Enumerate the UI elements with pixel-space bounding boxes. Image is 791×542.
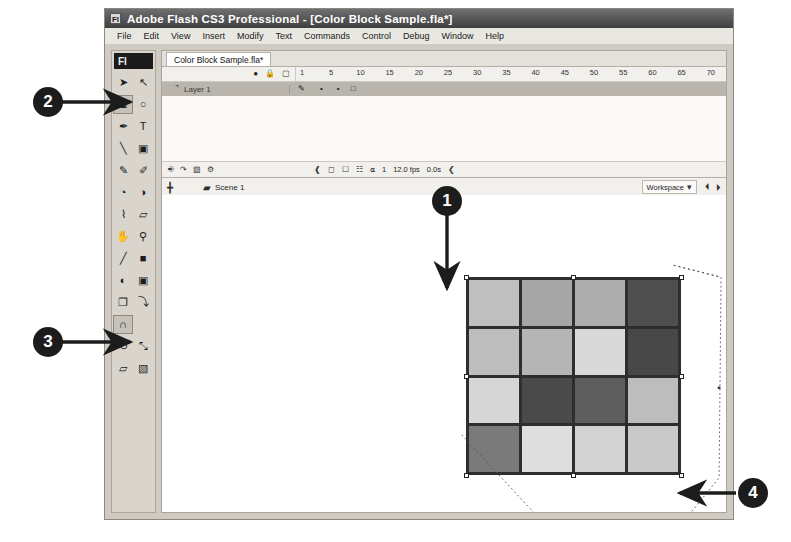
timeline-playback-info: ❰ ◻ ☐ ☷ ⍺ 1 12.0 fps 0.0s ❮ (290, 165, 726, 174)
color-block-r4-c1[interactable] (469, 426, 519, 472)
layer-name-cell[interactable]: ⌝ Layer 1 (162, 85, 290, 94)
menu-item-modify[interactable]: Modify (231, 31, 270, 41)
pencil-tool[interactable]: ✎ (113, 161, 133, 180)
layer-visibility-dot[interactable]: • (320, 85, 323, 93)
menu-item-commands[interactable]: Commands (298, 31, 356, 41)
free-transform-tool[interactable]: ⧉ (113, 95, 133, 114)
selection-tool[interactable]: ➤ (113, 73, 133, 92)
new-layer-icon[interactable]: ⎆ (168, 166, 174, 174)
ink-bottle-tool[interactable]: ◔ (113, 183, 133, 202)
color-block-r4-c4[interactable] (628, 426, 678, 472)
eyedropper-tool[interactable]: ⌇ (113, 205, 133, 224)
swap-colors-swatch[interactable]: ▣ (133, 271, 153, 290)
zoom-tool[interactable]: ⚲ (133, 227, 153, 246)
color-block-r3-c1[interactable] (469, 378, 519, 424)
center-frame-icon[interactable]: ❰ (314, 166, 321, 174)
color-block-grid[interactable] (466, 277, 681, 475)
scale-option[interactable]: ⤡ (133, 337, 153, 356)
edit-multiple-frames-icon[interactable]: ☷ (356, 166, 363, 174)
add-motion-guide-icon[interactable]: ↷ (180, 166, 187, 174)
subselection-tool[interactable]: ↖ (133, 73, 153, 92)
line-tool[interactable]: ╲ (113, 139, 133, 158)
transform-handle-1[interactable] (464, 275, 469, 280)
menu-item-text[interactable]: Text (269, 31, 298, 41)
hand-tool[interactable]: ✋ (113, 227, 133, 246)
color-block-r2-c4[interactable] (628, 329, 678, 375)
text-tool[interactable]: T (133, 117, 153, 136)
color-block-r2-c1[interactable] (469, 329, 519, 375)
lock-icon[interactable]: 🔒 (265, 70, 275, 78)
layer-icon: ⌝ (175, 85, 179, 93)
scene-icon: ▰ (203, 182, 211, 193)
transform-handle-7[interactable] (571, 473, 576, 478)
stroke-color-swatch[interactable]: ╱ (113, 249, 133, 268)
onion-skin-outline-icon[interactable]: ☐ (342, 166, 349, 174)
eraser-tool[interactable]: ▱ (133, 205, 153, 224)
onion-skin-icon[interactable]: ◻ (328, 166, 335, 174)
edit-scene-icon[interactable]: ╋ (167, 182, 173, 193)
rectangle-tool[interactable]: ▣ (133, 139, 153, 158)
layer-pencil-icon[interactable]: ✎ (298, 85, 305, 93)
eye-icon[interactable]: ● (253, 70, 258, 78)
color-block-r4-c2[interactable] (522, 426, 572, 472)
transform-handle-5[interactable] (679, 374, 684, 379)
menu-item-debug[interactable]: Debug (397, 31, 436, 41)
stage-canvas[interactable] (162, 195, 726, 512)
rotate-option[interactable]: ↻ (113, 337, 133, 356)
color-block-r3-c2[interactable] (522, 378, 572, 424)
color-block-r4-c3[interactable] (575, 426, 625, 472)
color-block-r1-c4[interactable] (628, 280, 678, 326)
menu-item-control[interactable]: Control (356, 31, 397, 41)
color-block-r2-c2[interactable] (522, 329, 572, 375)
menu-item-help[interactable]: Help (480, 31, 511, 41)
new-folder-icon[interactable]: ▧ (193, 166, 201, 174)
menu-item-window[interactable]: Window (436, 31, 480, 41)
envelope-option[interactable]: ▧ (133, 359, 153, 378)
smooth-option[interactable]: ⤵ (133, 293, 153, 312)
timeline-ruler[interactable]: 151015202530354045505560657075 (296, 67, 726, 81)
outline-square-icon[interactable]: ▢ (282, 70, 290, 78)
modify-onion-markers-icon[interactable]: ⍺ (370, 166, 375, 174)
color-block-r1-c3[interactable] (575, 280, 625, 326)
color-block-artwork[interactable] (466, 277, 681, 475)
layer-outline-square[interactable]: □ (351, 85, 356, 93)
pen-tool[interactable]: ✒ (113, 117, 133, 136)
frame-rate-value[interactable]: 12.0 fps (393, 165, 420, 174)
transform-handle-8[interactable] (679, 473, 684, 478)
scroll-left-icon[interactable]: ❮ (448, 166, 455, 174)
fill-color-swatch[interactable]: ■ (133, 249, 153, 268)
black-white-swatch[interactable]: ◐ (113, 271, 133, 290)
callout-1-label: 1 (442, 191, 451, 211)
menu-item-file[interactable]: File (111, 31, 138, 41)
document-tab[interactable]: Color Block Sample.fla* (166, 52, 271, 66)
callout-1: 1 (432, 186, 462, 216)
transform-handle-3[interactable] (679, 275, 684, 280)
color-block-r2-c3[interactable] (575, 329, 625, 375)
transform-handle-2[interactable] (571, 275, 576, 280)
transform-handle-6[interactable] (464, 473, 469, 478)
color-block-r1-c2[interactable] (522, 280, 572, 326)
scene-name-label[interactable]: Scene 1 (215, 183, 244, 192)
brush-tool[interactable]: ✐ (133, 161, 153, 180)
layer-row[interactable]: ⌝ Layer 1 ✎ • • □ (162, 82, 726, 96)
transform-handle-4[interactable] (464, 374, 469, 379)
object-drawing-option[interactable]: ❐ (113, 293, 133, 312)
delete-layer-icon[interactable]: ⚙ (207, 166, 214, 174)
flash-logo: Fl (114, 53, 153, 69)
workspace-selector[interactable]: Workspace ▾ (642, 180, 697, 194)
lasso-tool[interactable]: ○ (133, 95, 153, 114)
menu-item-view[interactable]: View (165, 31, 196, 41)
layer-lock-dot[interactable]: • (337, 85, 340, 93)
paint-bucket-tool[interactable]: ◑ (133, 183, 153, 202)
color-block-r3-c3[interactable] (575, 378, 625, 424)
callout-4: 4 (738, 478, 768, 508)
edit-symbols-button-icon[interactable]: ⏵ (716, 182, 721, 193)
snap-to-objects-option[interactable]: ∩ (113, 315, 133, 334)
distort-option[interactable]: ▱ (113, 359, 133, 378)
chevron-down-icon: ▾ (687, 182, 692, 192)
color-block-r3-c4[interactable] (628, 378, 678, 424)
menu-item-edit[interactable]: Edit (138, 31, 166, 41)
edit-scene-button-icon[interactable]: ⏴ (705, 182, 710, 193)
menu-item-insert[interactable]: Insert (196, 31, 231, 41)
color-block-r1-c1[interactable] (469, 280, 519, 326)
